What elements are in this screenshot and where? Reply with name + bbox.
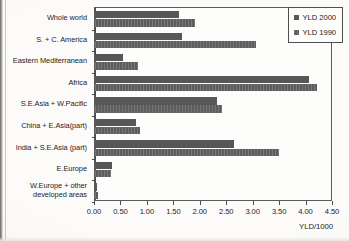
- x-axis-tick: [306, 201, 307, 205]
- bar-yld-2000: [95, 76, 309, 83]
- category-label: China + E.Asia(part): [21, 121, 87, 130]
- bar-yld-1990: [95, 105, 222, 112]
- category-label: Eastern Mediterranean: [13, 56, 87, 65]
- bar-yld-1990: [95, 19, 195, 26]
- bar-yld-2000: [95, 33, 182, 40]
- x-axis-title: YLD/1000: [299, 222, 333, 231]
- legend-label: YLD 1990: [303, 28, 336, 37]
- category-label: W.Europe + other developed areas: [30, 181, 87, 199]
- x-axis-tick: [173, 201, 174, 205]
- category-label: E.Europe: [57, 164, 87, 173]
- x-axis-tick: [147, 201, 148, 205]
- bar-yld-2000: [95, 140, 234, 147]
- bar-yld-2000: [95, 183, 97, 190]
- bar-yld-1990: [95, 84, 317, 91]
- x-axis-tick: [94, 201, 95, 205]
- bar-yld-1990: [95, 41, 256, 48]
- legend-swatch-icon: [294, 30, 299, 35]
- bar-group: [95, 94, 331, 116]
- bar-yld-2000: [95, 97, 217, 104]
- bar-yld-2000: [95, 119, 136, 126]
- x-axis-tick: [332, 201, 333, 205]
- category-label: S. + C. America: [36, 35, 87, 44]
- bar-yld-1990: [95, 62, 138, 69]
- category-label: Africa: [68, 78, 87, 87]
- bar-group: [95, 137, 331, 159]
- bar-group: [95, 180, 331, 202]
- scan-bottom-artifact: [0, 237, 349, 241]
- figure-page: Whole worldS. + C. AmericaEastern Medite…: [0, 0, 349, 241]
- x-axis-tick-label: 3.00: [245, 207, 259, 216]
- x-axis-tick: [226, 201, 227, 205]
- x-axis-tick-label: 2.50: [219, 207, 233, 216]
- x-axis-tick-label: 4.00: [298, 207, 312, 216]
- x-axis-tick-label: 3.50: [272, 207, 286, 216]
- bar-group: [95, 159, 331, 181]
- bar-yld-2000: [95, 54, 123, 61]
- x-axis-tick: [200, 201, 201, 205]
- x-axis-tick: [253, 201, 254, 205]
- bar-yld-2000: [95, 11, 179, 18]
- x-axis-tick-label: 1.50: [166, 207, 180, 216]
- x-axis-tick-labels: 0.000.501.001.502.002.503.003.504.004.50: [0, 207, 349, 219]
- x-axis-tick-label: 1.00: [140, 207, 154, 216]
- legend-item-yld-1990: YLD 1990: [294, 27, 336, 38]
- bar-group: [95, 51, 331, 73]
- bar-yld-1990: [95, 127, 140, 134]
- x-axis-tick: [120, 201, 121, 205]
- x-axis-tick-label: 0.00: [87, 207, 101, 216]
- chart-legend: YLD 2000 YLD 1990: [288, 7, 343, 43]
- category-label: Whole world: [47, 13, 87, 22]
- legend-swatch-icon: [294, 15, 299, 20]
- bar-yld-1990: [95, 192, 98, 199]
- bar-group: [95, 116, 331, 138]
- bar-yld-1990: [95, 170, 111, 177]
- x-axis-tick: [279, 201, 280, 205]
- legend-item-yld-2000: YLD 2000: [294, 12, 336, 23]
- category-label: India + S.E.Asia (part): [16, 143, 87, 152]
- x-axis-tick-label: 0.50: [113, 207, 127, 216]
- bar-yld-2000: [95, 162, 112, 169]
- bar-yld-1990: [95, 149, 279, 156]
- legend-label: YLD 2000: [303, 13, 336, 22]
- bar-group: [95, 73, 331, 95]
- x-axis-tick-label: 2.00: [193, 207, 207, 216]
- x-axis-tick-label: 4.50: [325, 207, 339, 216]
- category-axis-labels: Whole worldS. + C. AmericaEastern Medite…: [0, 7, 91, 201]
- category-label: S.E.Asia + W.Pacific: [21, 99, 87, 108]
